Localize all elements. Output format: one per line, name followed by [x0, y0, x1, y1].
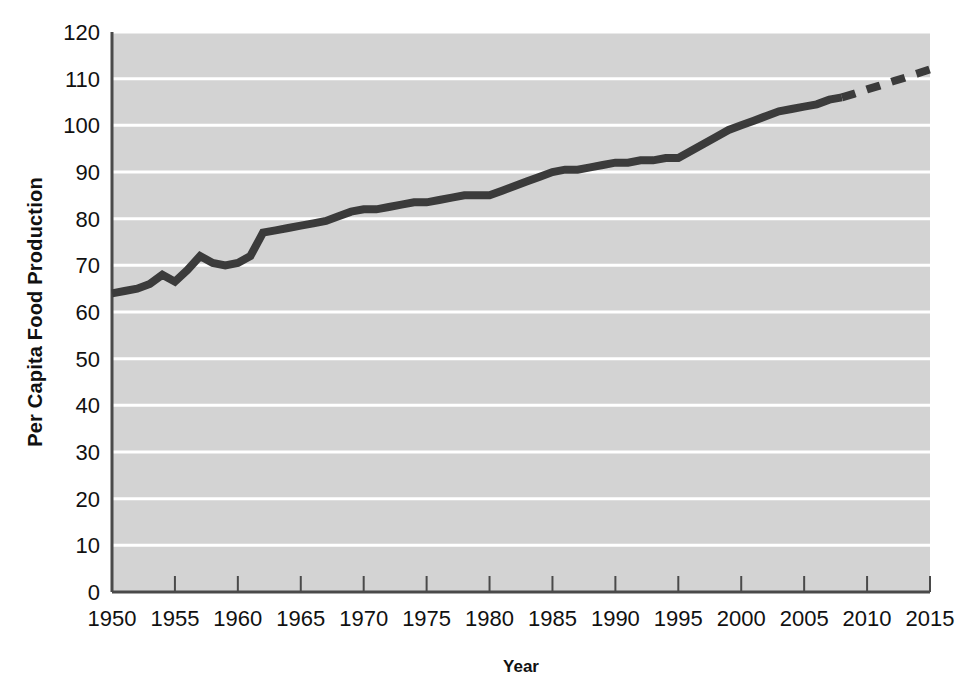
x-axis-title: Year	[503, 657, 539, 676]
x-tick-label: 1980	[465, 606, 514, 631]
x-tick-label: 1950	[88, 606, 137, 631]
x-tick-label: 2015	[906, 606, 955, 631]
y-tick-label: 80	[76, 207, 100, 232]
x-tick-label: 1995	[654, 606, 703, 631]
y-tick-labels: 0102030405060708090100110120	[63, 20, 100, 605]
x-tick-label: 2005	[780, 606, 829, 631]
x-tick-label: 1990	[591, 606, 640, 631]
chart-figure: 0102030405060708090100110120 19501955196…	[0, 0, 960, 689]
x-tick-labels: 1950195519601965197019751980198519901995…	[88, 606, 955, 631]
y-tick-label: 70	[76, 253, 100, 278]
y-tick-label: 120	[63, 20, 100, 45]
y-tick-label: 30	[76, 440, 100, 465]
y-tick-label: 100	[63, 113, 100, 138]
x-tick-label: 2010	[843, 606, 892, 631]
x-tick-label: 1970	[339, 606, 388, 631]
x-tick-label: 1965	[276, 606, 325, 631]
x-tick-label: 1955	[150, 606, 199, 631]
y-tick-label: 0	[88, 580, 100, 605]
y-tick-label: 10	[76, 533, 100, 558]
y-tick-label: 110	[65, 67, 100, 92]
y-tick-label: 20	[76, 487, 100, 512]
y-tick-label: 60	[76, 300, 100, 325]
y-tick-label: 40	[76, 393, 100, 418]
x-tick-label: 1960	[213, 606, 262, 631]
y-tick-label: 50	[76, 347, 100, 372]
x-tick-label: 1975	[402, 606, 451, 631]
x-tick-label: 2000	[717, 606, 766, 631]
y-axis-title: Per Capita Food Production	[24, 177, 46, 447]
x-tick-label: 1985	[528, 606, 577, 631]
y-tick-label: 90	[76, 160, 100, 185]
